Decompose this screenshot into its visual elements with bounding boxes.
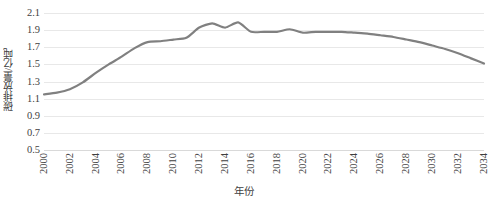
x-axis-tick-label: 2024 [349,153,360,174]
x-axis-tick: 2012 [193,153,205,185]
x-axis-tick: 2034 [478,153,488,185]
x-axis-tick-label: 2018 [272,153,283,174]
x-axis-tick-label: 2026 [375,153,386,174]
x-axis-tick-label: 2030 [427,153,438,174]
x-axis-tick-label: 2020 [298,153,309,174]
y-axis-tick-label: 1.3 [27,76,40,87]
x-axis-title: 年份 [0,183,488,198]
x-axis-tick: 2008 [142,153,154,185]
x-axis-tick: 2026 [374,153,386,185]
x-axis-tick: 2030 [426,153,438,185]
x-axis-tick-label: 2008 [142,153,153,174]
x-axis-tick: 2018 [271,153,283,185]
x-axis-tick: 2020 [297,153,309,185]
series-line-carbon-emission [44,13,484,150]
x-axis-tick-label: 2006 [116,153,127,174]
x-axis-tick-label: 2032 [453,153,464,174]
y-axis-title-label: 碳排放量/亿吨 [4,48,14,111]
y-axis-tick-label: 0.9 [27,111,40,122]
x-axis-tick-label: 2010 [168,153,179,174]
x-axis-title-label: 年份 [234,186,254,197]
x-axis-tick: 2024 [349,153,361,185]
x-axis-tick: 2002 [64,153,76,185]
carbon-emission-line-chart: 碳排放量/亿吨 2.11.91.71.51.31.10.90.70.5 2000… [0,0,488,205]
x-axis-tick-label: 2016 [246,153,257,174]
x-axis-tick-label: 2012 [194,153,205,174]
x-axis-tick-label: 2014 [220,153,231,174]
gridline [44,150,484,151]
y-axis-tick-label: 0.7 [27,128,40,139]
x-axis-tick-label: 2002 [65,153,76,174]
x-axis-tick-label: 2022 [323,153,334,174]
y-axis-tick-label: 2.1 [27,8,40,19]
x-axis-tick-label: 2034 [479,153,488,174]
x-axis-tick-label: 2000 [39,153,50,174]
x-axis-tick: 2004 [90,153,102,185]
x-axis-tick: 2028 [400,153,412,185]
x-axis-tick: 2000 [38,153,50,185]
x-axis-tick: 2032 [452,153,464,185]
x-axis-tick-labels: 2000200220042006200820102012201420162018… [44,152,484,186]
x-axis-tick: 2010 [167,153,179,185]
x-axis-tick: 2016 [245,153,257,185]
series-path [44,22,484,94]
x-axis-tick: 2014 [219,153,231,185]
x-axis-tick-label: 2028 [401,153,412,174]
x-axis-tick-label: 2004 [91,153,102,174]
x-axis-tick: 2006 [116,153,128,185]
y-axis-tick-label: 1.1 [27,93,40,104]
plot-area [44,13,484,150]
y-axis-tick-label: 1.9 [27,25,40,36]
y-axis-tick-labels: 2.11.91.71.51.31.10.90.70.5 [16,0,42,158]
y-axis-tick-label: 1.7 [27,42,40,53]
x-axis-tick: 2022 [323,153,335,185]
y-axis-tick-label: 1.5 [27,59,40,70]
